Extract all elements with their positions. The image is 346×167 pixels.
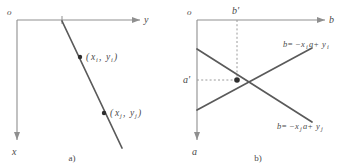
- equation-i-const: y: [321, 39, 326, 49]
- panel-b-vertical-axis-label: a: [192, 146, 197, 157]
- point-i-close: ): [113, 52, 117, 63]
- dual-space-figure: o y x ( x i , y i ) ( x j , y j: [0, 0, 346, 167]
- equation-j-lhs: b=: [277, 121, 287, 131]
- equation-i-lhs: b=: [283, 39, 293, 49]
- panel-b-equation-i-label: b= − x i a+ y i: [283, 39, 329, 50]
- equation-i-coef: x: [300, 39, 305, 49]
- equation-i-neg: −: [295, 39, 301, 49]
- panel-b-vertical-axis-arrow: [194, 132, 200, 140]
- point-j-close: ): [137, 108, 141, 119]
- panel-a-vertical-axis-arrow: [14, 132, 20, 140]
- panel-b-line-equation-j: [197, 49, 312, 122]
- equation-i-const-sub: i: [327, 43, 329, 50]
- point-j-open: (: [110, 108, 114, 119]
- panel-b-caption: b): [254, 153, 262, 163]
- panel-a-point-j-dot: [102, 111, 106, 115]
- point-i-y-sub: i: [111, 56, 113, 63]
- equation-j-neg: −: [289, 121, 295, 131]
- panel-b-line-equation-i: [197, 48, 312, 110]
- equation-j-const: y: [315, 121, 320, 131]
- point-i-comma: ,: [99, 52, 101, 62]
- panel-b: o b a b' a' b= − x i a+ y i b= −: [183, 5, 334, 163]
- panel-a-horizontal-axis-label: y: [143, 14, 149, 25]
- panel-b-origin-label: o: [187, 7, 192, 17]
- panel-a-origin-label: o: [7, 7, 12, 17]
- point-j-x-sub: j: [119, 112, 122, 119]
- equation-i-coef-sub: i: [306, 43, 308, 50]
- panel-b-guide-left-label: a': [183, 74, 191, 85]
- equation-j-var: a+: [303, 121, 313, 131]
- panel-a-horizontal-axis-arrow: [132, 17, 140, 23]
- panel-a-point-i-dot: [78, 55, 82, 59]
- point-j-y-sub: j: [134, 112, 137, 119]
- panel-b-guide-top-label: b': [232, 5, 240, 16]
- panel-a-caption: a): [69, 153, 76, 163]
- equation-i-var: a+: [309, 39, 319, 49]
- panel-a-point-i-label: ( x i , y i ): [86, 52, 117, 63]
- equation-j-const-sub: j: [320, 125, 323, 132]
- equation-j-coef: x: [294, 121, 299, 131]
- panel-b-intersection-dot: [234, 77, 240, 83]
- panel-b-horizontal-axis-arrow: [317, 17, 325, 23]
- panel-a-data-line: [62, 21, 122, 148]
- panel-b-equation-j-label: b= − x j a+ y j: [277, 121, 323, 132]
- point-j-comma: ,: [123, 108, 125, 118]
- panel-a-vertical-axis-label: x: [11, 146, 17, 157]
- figure-root: o y x ( x i , y i ) ( x j , y j: [0, 0, 346, 167]
- panel-a: o y x ( x i , y i ) ( x j , y j: [7, 7, 149, 163]
- point-i-x-sub: i: [96, 56, 98, 63]
- panel-a-point-j-label: ( x j , y j ): [110, 108, 141, 119]
- equation-j-coef-sub: j: [299, 125, 302, 132]
- point-i-open: (: [86, 52, 90, 63]
- panel-b-horizontal-axis-label: b: [329, 14, 334, 25]
